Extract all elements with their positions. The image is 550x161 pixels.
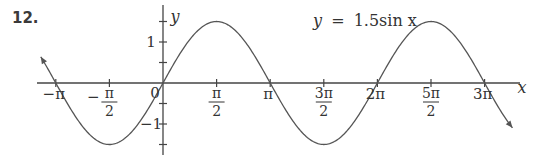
x-tick-label: 2π [366, 85, 386, 103]
x-tick-numerator: π [212, 85, 221, 101]
x-tick-denominator: 2 [427, 103, 436, 119]
x-tick-denominator: 2 [212, 103, 221, 119]
y-axis-label: y [169, 7, 180, 26]
equation-label: y = 1.5sin x [312, 11, 417, 30]
x-axis-label: x [517, 78, 526, 97]
x-tick-label: π [263, 85, 273, 103]
x-tick-numerator: π [105, 85, 114, 101]
problem-number: 12. [12, 9, 39, 27]
x-tick-label: −π [43, 85, 66, 103]
x-tick-denominator: 2 [105, 103, 114, 119]
plot-area: −π−π20π2π3π22π5π23π1−1yx y = 1.5sin x [0, 0, 550, 161]
arrow-icon [506, 120, 513, 127]
x-tick-numerator: 3π [315, 85, 333, 101]
x-tick-numerator: 5π [422, 85, 440, 101]
axes [37, 5, 520, 155]
y-tick-label: 1 [146, 33, 156, 51]
x-tick-denominator: 2 [319, 103, 328, 119]
x-tick-sign: − [87, 88, 100, 106]
y-tick-label: −1 [140, 115, 162, 133]
sine-graph-figure: 12. −π−π20π2π3π22π5π23π1−1yx y = 1.5sin … [0, 0, 550, 161]
axis-labels: −π−π20π2π3π22π5π23π1−1yx [43, 7, 527, 133]
x-tick-label: 3π [473, 85, 493, 103]
origin-label: 0 [150, 84, 160, 102]
